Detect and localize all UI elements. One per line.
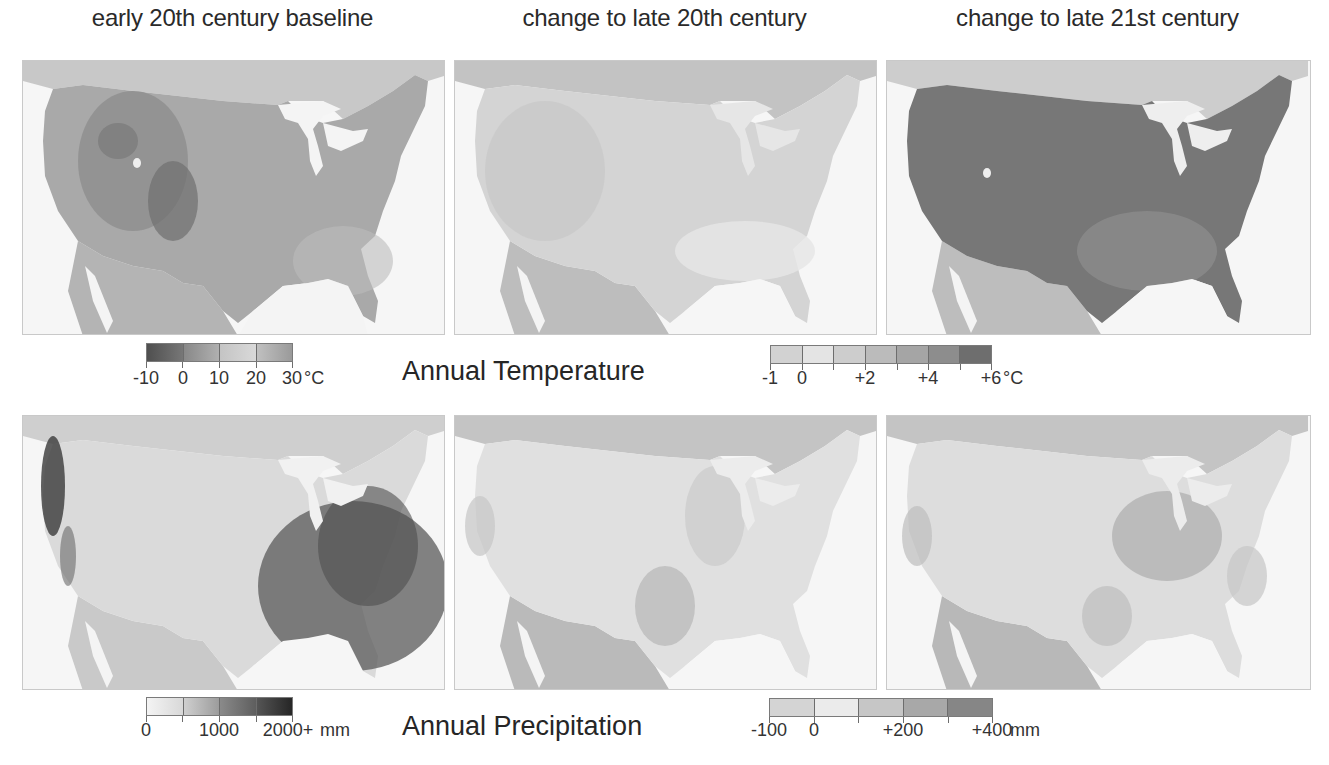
- colorbar-segment: [770, 699, 815, 716]
- precipitation-change-tick-labels: -100 0 +200 +400: [769, 720, 993, 742]
- colorbar-segment: [184, 698, 221, 715]
- tick-label: 1000: [199, 720, 239, 741]
- colorbar-segment: [866, 346, 898, 363]
- column-title-late21: change to late 21st century: [886, 4, 1309, 32]
- colorbar-segment: [257, 344, 293, 361]
- tick-label: 0: [809, 720, 819, 741]
- tick-label: 0: [178, 368, 188, 389]
- row-label-temperature: Annual Temperature: [402, 356, 645, 387]
- precipitation-baseline-tick-labels: 0 1000 2000+: [146, 720, 293, 742]
- colorbar-segment: [948, 699, 992, 716]
- colorbar-segment: [859, 699, 904, 716]
- tick-label: 20: [246, 368, 266, 389]
- temperature-baseline-unit: °C: [304, 368, 324, 389]
- temperature-change-late21-map: [886, 60, 1311, 335]
- colorbar-segment: [147, 344, 184, 361]
- column-title-baseline: early 20th century baseline: [22, 4, 443, 32]
- colorbar-segment: [220, 344, 257, 361]
- colorbar-segment: [960, 346, 991, 363]
- tick-label: +2: [855, 368, 876, 389]
- colorbar-segment: [897, 346, 929, 363]
- colorbar-segment: [771, 346, 803, 363]
- temperature-baseline-tick-labels: -10 0 10 20 30: [146, 368, 293, 390]
- tick-label: 0: [797, 368, 807, 389]
- tick-label: 30: [282, 368, 302, 389]
- tick-label: -1: [762, 368, 778, 389]
- precipitation-change-unit: mm: [1010, 720, 1040, 741]
- precipitation-baseline-colorbar: [146, 697, 293, 716]
- temperature-baseline-map: [22, 60, 445, 335]
- temperature-change-unit: °C: [1003, 368, 1023, 389]
- temperature-change-colorbar: [770, 345, 992, 364]
- colorbar-segment: [184, 344, 221, 361]
- tick-label: -100: [751, 720, 787, 741]
- tick-label: +4: [918, 368, 939, 389]
- colorbar-segment: [220, 698, 257, 715]
- colorbar-segment: [929, 346, 961, 363]
- tick-label: +400: [972, 720, 1013, 741]
- temperature-change-late20-map: [454, 60, 877, 335]
- colorbar-segment: [815, 699, 860, 716]
- tick-label: 10: [209, 368, 229, 389]
- precipitation-change-colorbar: [769, 698, 993, 717]
- precipitation-change-late21-map: [886, 415, 1311, 690]
- precipitation-baseline-map: [22, 415, 445, 690]
- tick-label: 0: [141, 720, 151, 741]
- colorbar-segment: [147, 698, 184, 715]
- tick-label: +6: [981, 368, 1002, 389]
- colorbar-segment: [803, 346, 835, 363]
- colorbar-segment: [257, 698, 293, 715]
- tick-label: +200: [883, 720, 924, 741]
- precipitation-change-late20-map: [454, 415, 877, 690]
- tick-label: 2000+: [263, 720, 314, 741]
- tick-label: -10: [133, 368, 159, 389]
- temperature-baseline-colorbar: [146, 343, 293, 362]
- colorbar-segment: [904, 699, 949, 716]
- precipitation-baseline-unit: mm: [320, 720, 350, 741]
- temperature-change-tick-labels: -1 0 +2 +4 +6: [770, 368, 992, 390]
- row-label-precipitation: Annual Precipitation: [402, 711, 642, 742]
- column-title-late20: change to late 20th century: [454, 4, 875, 32]
- colorbar-segment: [834, 346, 866, 363]
